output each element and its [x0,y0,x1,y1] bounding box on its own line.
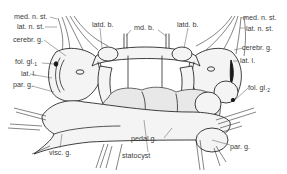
label-lat-n-st-right: lat. n. st. [246,24,273,33]
label-pedal-g: pedal g. [131,134,157,143]
label-lat-l-right: lat. l. [240,56,255,65]
label-fol-gl-1: fol. gl.1 [15,57,37,67]
latd-body-left [98,47,118,61]
label-md-b: md. b. [134,23,154,32]
label-statocyst: statocyst [122,151,150,160]
label-par-g-right: par. g. [230,142,250,151]
foliar-gland-2 [231,98,235,101]
label-latd-b-left: latd. b. [92,20,114,29]
label-lat-l-left: lat. l. [21,69,36,78]
lateral-lobe-left-spot [76,70,84,74]
label-cerebr-g-right: cerebr. g. [242,43,272,52]
lateral-lobe-right-spot [207,67,214,71]
label-med-n-st-right: med. n. st. [243,13,277,22]
latd-body-right [172,47,192,61]
label-fol-gl-2: fol. gl.2 [248,83,270,93]
label-med-n-st-left: med. n. st. [14,12,48,21]
label-lat-n-st-left: lat. n. st. [17,22,44,31]
cerebral-ganglion-left [49,48,102,101]
foliar-gland-1 [54,62,58,66]
label-latd-b-right: latd. b. [177,20,199,29]
nervous-system-diagram: med. n. st. lat. n. st. cerebr. g. fol. … [0,0,287,174]
label-cerebr-g-left: cerebr. g. [13,35,43,44]
label-par-g-left: par. g. [13,80,33,89]
label-visc-g: visc. g. [49,148,71,157]
